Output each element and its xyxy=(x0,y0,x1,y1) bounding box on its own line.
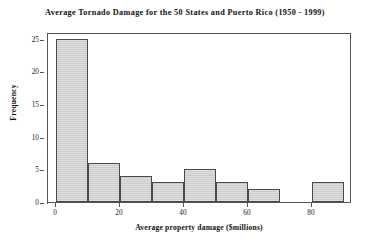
y-tick-label: 10 xyxy=(32,133,39,142)
x-tick-label: 60 xyxy=(233,208,261,217)
histogram-bar xyxy=(248,189,280,202)
y-tick-mark xyxy=(40,40,44,41)
x-tick-label: 80 xyxy=(297,208,325,217)
x-tick-mark xyxy=(183,203,184,207)
y-tick-mark xyxy=(40,170,44,171)
x-axis-title: Average property damage ($millions) xyxy=(47,223,351,232)
y-tick-label: 15 xyxy=(32,100,39,109)
y-tick-label: 20 xyxy=(32,67,39,76)
y-tick-label: 25 xyxy=(32,35,39,44)
x-tick-label: 0 xyxy=(41,208,69,217)
x-tick-mark xyxy=(55,203,56,207)
histogram-bar xyxy=(312,182,344,202)
y-tick-label: 5 xyxy=(35,165,39,174)
y-tick-mark xyxy=(40,138,44,139)
histogram-figure: Average Tornado Damage for the 50 States… xyxy=(0,0,370,247)
histogram-bar xyxy=(184,169,216,202)
histogram-bar xyxy=(56,39,88,202)
x-tick-mark xyxy=(311,203,312,207)
x-tick-mark xyxy=(119,203,120,207)
histogram-bar xyxy=(216,182,248,202)
histogram-bar xyxy=(120,176,152,202)
chart-title: Average Tornado Damage for the 50 States… xyxy=(0,8,370,17)
plot-frame xyxy=(47,33,351,203)
y-tick-mark xyxy=(40,105,44,106)
x-tick-label: 40 xyxy=(169,208,197,217)
y-tick-mark xyxy=(40,72,44,73)
plot-area xyxy=(48,34,350,202)
x-tick-label: 20 xyxy=(105,208,133,217)
x-tick-mark xyxy=(247,203,248,207)
histogram-bar xyxy=(152,182,184,202)
histogram-bar xyxy=(88,163,120,202)
